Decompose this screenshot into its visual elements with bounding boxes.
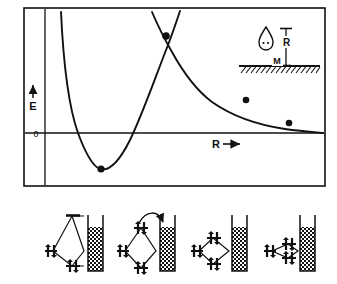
mixing-line-1a bbox=[53, 216, 84, 251]
orbital-diagram-2 bbox=[117, 213, 175, 275]
molecule-electron-dot bbox=[267, 42, 269, 44]
mixing-line-1b bbox=[53, 251, 84, 266]
mixing-lens-3 bbox=[199, 238, 229, 264]
band-filled-region-4 bbox=[300, 227, 315, 271]
molecule-icon bbox=[259, 27, 273, 50]
adsorbate-level-4 bbox=[264, 244, 276, 258]
metal-label: M bbox=[273, 56, 281, 66]
mixing-lens-2 bbox=[125, 228, 156, 268]
distance-label: R bbox=[283, 37, 291, 48]
curve-decay-branch bbox=[152, 12, 323, 133]
level-bonding-1 bbox=[66, 259, 80, 273]
y-axis-zero-label: 0 bbox=[33, 129, 38, 139]
x-axis-label: R bbox=[212, 138, 220, 150]
marker-far-point bbox=[286, 120, 293, 127]
marker-intermediate-point bbox=[243, 97, 250, 104]
band-filled-region-1 bbox=[88, 227, 103, 271]
y-axis-label: E bbox=[29, 100, 36, 112]
band-filled-region-2 bbox=[160, 227, 175, 271]
level-bonding-4 bbox=[282, 251, 296, 265]
marker-well-minimum bbox=[97, 165, 104, 172]
adsorbate-level-2 bbox=[117, 244, 129, 258]
figure-root: E 0 R R bbox=[0, 0, 337, 284]
adsorbate-level-3 bbox=[191, 244, 203, 258]
molecule-electron-dot bbox=[262, 42, 264, 44]
surface-hatching bbox=[241, 67, 320, 74]
band-filled-region-3 bbox=[232, 227, 247, 271]
inset-adsorption-schematic: R M bbox=[239, 27, 320, 73]
level-antibonding-3 bbox=[207, 231, 221, 245]
marker-curve-crossing bbox=[162, 32, 170, 40]
level-antibonding-2 bbox=[134, 221, 148, 235]
orbital-diagram-1 bbox=[45, 215, 103, 273]
orbital-diagram-3 bbox=[191, 215, 247, 271]
orbital-diagram-4 bbox=[264, 215, 315, 271]
level-antibonding-4 bbox=[282, 237, 296, 251]
figure-svg: E 0 R R bbox=[0, 0, 337, 284]
mixing-line-1c bbox=[72, 216, 84, 266]
